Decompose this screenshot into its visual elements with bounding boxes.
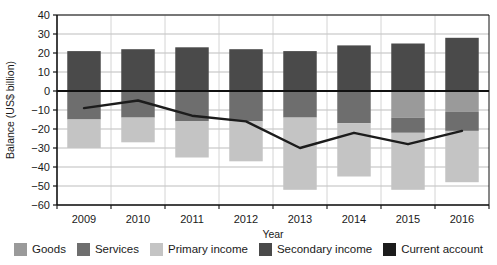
bar-segment — [229, 49, 262, 91]
legend-label: Services — [95, 243, 139, 255]
chart-container: 403020100−10−20−30−40−50−60 200920102011… — [0, 0, 497, 265]
bar-segment — [175, 121, 208, 157]
y-tick-label: −60 — [31, 199, 50, 211]
legend-label: Secondary income — [277, 243, 372, 255]
legend-label: Current account — [401, 243, 483, 255]
y-tick-label: 0 — [44, 85, 50, 97]
legend-label: Goods — [32, 243, 66, 255]
y-axis-title: Balance (US$ billion) — [4, 61, 16, 159]
x-tick-label: 2014 — [342, 213, 366, 225]
x-tick-label: 2011 — [180, 213, 204, 225]
bar-segment — [283, 91, 316, 118]
y-tick-label: −30 — [31, 142, 50, 154]
x-tick-label: 2015 — [396, 213, 420, 225]
y-axis-ticks: 403020100−10−20−30−40−50−60 — [31, 9, 57, 211]
legend-label: Primary income — [168, 243, 248, 255]
legend-item: Primary income — [150, 243, 248, 256]
bar-segment — [337, 123, 370, 176]
y-tick-label: 30 — [38, 28, 50, 40]
bar-segment — [121, 118, 154, 143]
legend-item: Current account — [383, 243, 483, 256]
legend-item: Services — [77, 243, 139, 256]
bar-segment — [337, 91, 370, 123]
legend-swatch — [259, 243, 272, 256]
x-tick-label: 2012 — [234, 213, 258, 225]
bar-segment — [229, 91, 262, 121]
y-tick-label: 10 — [38, 66, 50, 78]
legend-item: Secondary income — [259, 243, 372, 256]
x-tick-label: 2010 — [126, 213, 150, 225]
x-axis-ticks: 20092010201120122013201420152016 — [57, 205, 489, 225]
bar-segment — [445, 38, 478, 91]
y-tick-label: 20 — [38, 47, 50, 59]
bar-segment — [67, 120, 100, 149]
bar-segment — [445, 131, 478, 182]
x-tick-label: 2009 — [72, 213, 96, 225]
legend-swatch — [383, 243, 396, 256]
y-tick-label: −20 — [31, 123, 50, 135]
bar-segment — [283, 118, 316, 190]
chart-legend: GoodsServicesPrimary incomeSecondary inc… — [0, 236, 497, 262]
x-tick-label: 2013 — [288, 213, 312, 225]
y-tick-label: −40 — [31, 161, 50, 173]
bar-segment — [67, 51, 100, 91]
bar-segment — [283, 51, 316, 91]
y-tick-label: −10 — [31, 104, 50, 116]
legend-swatch — [150, 243, 163, 256]
y-tick-label: −50 — [31, 180, 50, 192]
legend-swatch — [77, 243, 90, 256]
legend-item: Goods — [14, 243, 66, 256]
bar-segment — [121, 49, 154, 91]
legend-swatch — [14, 243, 27, 256]
bar-segment — [445, 112, 478, 131]
bar-segment — [175, 47, 208, 91]
y-tick-label: 40 — [38, 9, 50, 21]
bar-segment — [391, 44, 424, 92]
bar-segment — [391, 91, 424, 118]
balance-stacked-bar-chart: 403020100−10−20−30−40−50−60 200920102011… — [0, 0, 497, 265]
bar-segment — [391, 118, 424, 133]
x-tick-label: 2016 — [450, 213, 474, 225]
bar-segment — [445, 91, 478, 112]
bar-segment — [337, 45, 370, 91]
